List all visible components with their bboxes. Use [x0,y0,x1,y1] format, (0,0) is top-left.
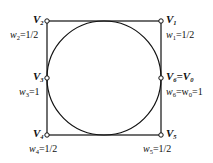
label-v4: V4 [33,127,44,140]
nurbs-circle [47,21,161,135]
circle-diagram: V2 w2=1/2 V1 w1=1/2 V3 w3=1 V6=V0 w6=w0=… [0,0,213,163]
weight-v2: w2=1/2 [10,29,38,41]
control-point-v4 [45,133,49,137]
weight-v1: w1=1/2 [166,29,194,41]
weight-v5: w5=1/2 [143,143,171,155]
weight-v6-v0: w6=w0=1 [166,86,203,98]
label-v2: V2 [33,13,44,26]
control-point-v2 [45,19,49,23]
label-v3: V3 [33,70,44,83]
label-v1: V1 [166,13,177,26]
control-point-v3 [45,76,49,80]
weight-v4: w4=1/2 [29,143,57,155]
control-point-v5 [159,133,163,137]
weight-v3: w3=1 [19,86,40,98]
control-point-v1 [159,19,163,23]
label-v6-v0: V6=V0 [166,70,194,83]
label-v5: V5 [166,127,177,140]
control-point-v6 [159,76,163,80]
